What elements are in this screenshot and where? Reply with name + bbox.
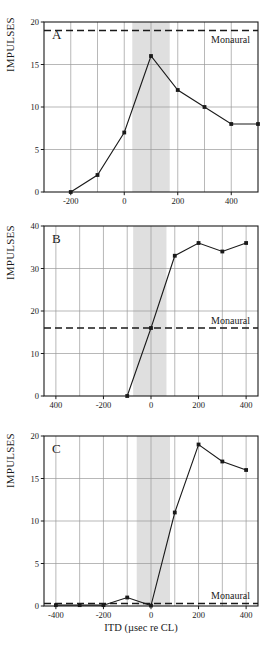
data-point <box>244 241 248 245</box>
y-tick-label: 10 <box>31 516 40 526</box>
data-point <box>203 105 207 109</box>
x-tick-label: 400 <box>225 196 238 206</box>
data-point <box>173 511 177 515</box>
monaural-label: Monaural <box>211 590 250 601</box>
data-point <box>78 603 82 607</box>
data-point <box>197 443 201 447</box>
y-tick-label: 0 <box>35 391 39 401</box>
data-point <box>122 131 126 135</box>
panel-letter: B <box>52 231 61 246</box>
x-tick-label: 400 <box>240 610 253 620</box>
x-tick-label: -200 <box>63 196 79 206</box>
y-tick-label: 5 <box>35 145 39 155</box>
data-point <box>220 250 224 254</box>
monaural-label: Monaural <box>211 315 250 326</box>
x-tick-label: -200 <box>96 400 112 410</box>
data-point <box>229 122 233 126</box>
x-tick-label: 0 <box>149 610 153 620</box>
y-tick-label: 20 <box>31 431 40 441</box>
panel-letter: A <box>52 27 62 42</box>
x-tick-label: 400 <box>50 400 63 410</box>
data-point <box>244 468 248 472</box>
data-point <box>149 54 153 58</box>
y-tick-label: 15 <box>31 60 40 70</box>
y-tick-label: 0 <box>35 187 39 197</box>
plot-area-a: Monaural-200020040005101520A <box>0 0 268 208</box>
data-point <box>220 460 224 464</box>
x-tick-label: 400 <box>240 400 253 410</box>
data-point <box>96 173 100 177</box>
y-tick-label: 10 <box>31 349 40 359</box>
data-point <box>173 254 177 258</box>
figure-impulses-vs-itd: IMPULSES Monaural-200020040005101520A IM… <box>0 0 268 650</box>
plot-area-b: Monaural400-2000200400010203040B <box>0 208 268 416</box>
x-axis-label: ITD (µsec re CL) <box>14 622 268 633</box>
monaural-label: Monaural <box>211 34 250 45</box>
x-tick-label: 200 <box>171 196 184 206</box>
data-point <box>125 394 129 398</box>
data-point <box>197 241 201 245</box>
panel-c: IMPULSES Monaural-400-200020040005101520… <box>0 416 268 650</box>
data-point <box>256 122 260 126</box>
y-tick-label: 0 <box>35 601 39 611</box>
plot-area-c: Monaural-400-200020040005101520C <box>0 416 268 650</box>
data-point <box>149 326 153 330</box>
x-tick-label: -200 <box>96 610 112 620</box>
panel-letter: C <box>52 441 61 456</box>
x-tick-label: 200 <box>192 610 205 620</box>
y-tick-label: 15 <box>31 474 40 484</box>
y-tick-label: 5 <box>35 559 39 569</box>
x-tick-label: 200 <box>192 400 205 410</box>
y-tick-label: 20 <box>31 17 40 27</box>
y-tick-label: 20 <box>31 306 40 316</box>
panel-a: IMPULSES Monaural-200020040005101520A <box>0 0 268 208</box>
panel-b: IMPULSES Monaural400-2000200400010203040… <box>0 208 268 416</box>
x-tick-label: -400 <box>48 610 64 620</box>
data-point <box>176 88 180 92</box>
x-tick-label: 0 <box>149 400 153 410</box>
data-point <box>125 596 129 600</box>
x-tick-label: 0 <box>122 196 126 206</box>
y-tick-label: 10 <box>31 102 40 112</box>
y-tick-label: 40 <box>31 221 40 231</box>
y-tick-label: 30 <box>31 264 40 274</box>
